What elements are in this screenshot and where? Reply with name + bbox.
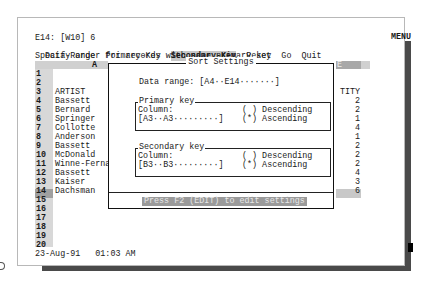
column-header-a[interactable]: A	[92, 61, 97, 70]
footer-datetime: 23-Aug-91 01:03 AM	[35, 250, 136, 259]
dialog-title: Sort Settings	[109, 58, 333, 67]
cell-status-line: E14: [W10] 6	[35, 34, 95, 43]
data-range-field[interactable]: [A4··E14·······]	[199, 77, 279, 87]
cell-a[interactable]: Dachsman	[55, 187, 95, 196]
primary-ascending-radio[interactable]: (*) Ascending	[242, 115, 307, 124]
secondary-key-group: Secondary key Column: [B3··B3·········] …	[135, 148, 331, 177]
dialog-footer-divider	[109, 192, 333, 193]
cell-e[interactable]: 6	[355, 187, 360, 196]
edit-hint: Press F2 (EDIT) to edit settings	[142, 197, 307, 206]
data-range-label: Data range: [A4··E14·······]	[139, 78, 280, 87]
sort-settings-dialog: Sort Settings Data range: [A4··E14······…	[108, 63, 334, 209]
window-shadow-right	[405, 41, 411, 271]
column-header-a-bar	[35, 61, 108, 69]
page-edge-mark	[0, 262, 5, 270]
mode-indicator: MENU	[391, 33, 411, 42]
text-cursor	[408, 243, 413, 252]
column-header-e[interactable]: E	[337, 61, 342, 70]
primary-column-field[interactable]: [A3··A3·········]	[138, 115, 223, 124]
secondary-ascending-radio[interactable]: (*) Ascending	[242, 161, 307, 170]
secondary-column-field[interactable]: [B3··B3·········]	[138, 161, 223, 170]
primary-key-group: Primary key Column: [A3··A3·········] ( …	[135, 102, 331, 131]
